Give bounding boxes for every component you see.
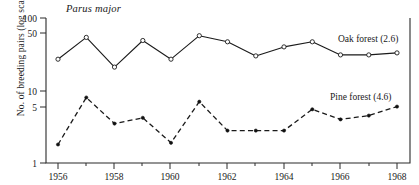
x-tick-1962: 1962 bbox=[218, 172, 237, 182]
chart-canvas: 100 50 10 5 1 1956 1958 1960 1962 1964 bbox=[0, 0, 419, 185]
oak-forest-label: Oak forest (2.6) bbox=[338, 34, 398, 45]
data-point bbox=[395, 51, 399, 55]
data-point bbox=[85, 96, 88, 99]
data-point bbox=[56, 57, 60, 61]
pine-forest-label: Pine forest (4.6) bbox=[330, 92, 391, 103]
series-pine-forest bbox=[56, 96, 398, 146]
x-axis-ticks: 1956 1958 1960 1962 1964 1966 1968 bbox=[49, 163, 407, 182]
data-point bbox=[282, 129, 285, 132]
figure: No. of breeding pairs (log scale) Parus … bbox=[0, 0, 419, 185]
y-axis-ticks: 100 50 10 5 1 bbox=[23, 14, 46, 169]
pine-forest-line bbox=[58, 98, 397, 145]
y-tick-5: 5 bbox=[32, 103, 37, 113]
data-point bbox=[225, 40, 229, 44]
data-point bbox=[113, 122, 116, 125]
y-tick-50: 50 bbox=[28, 29, 38, 39]
data-point bbox=[282, 45, 286, 49]
x-tick-1956: 1956 bbox=[49, 172, 68, 182]
x-tick-1968: 1968 bbox=[388, 172, 407, 182]
x-tick-1958: 1958 bbox=[105, 172, 124, 182]
x-tick-1964: 1964 bbox=[275, 172, 294, 182]
data-point bbox=[367, 114, 370, 117]
data-point bbox=[339, 118, 342, 121]
data-point bbox=[169, 141, 172, 144]
data-point bbox=[311, 108, 314, 111]
data-point bbox=[254, 129, 257, 132]
pine-forest-markers bbox=[56, 96, 398, 146]
data-point bbox=[141, 116, 144, 119]
data-point bbox=[141, 38, 145, 42]
data-point bbox=[198, 100, 201, 103]
data-point bbox=[395, 105, 398, 108]
data-point bbox=[112, 65, 116, 69]
data-point bbox=[338, 53, 342, 57]
data-point bbox=[197, 34, 201, 38]
data-point bbox=[254, 54, 258, 58]
x-tick-1966: 1966 bbox=[331, 172, 350, 182]
data-point bbox=[169, 57, 173, 61]
data-point bbox=[310, 40, 314, 44]
data-point bbox=[367, 53, 371, 57]
data-point bbox=[56, 143, 59, 146]
data-point bbox=[226, 129, 229, 132]
y-tick-1: 1 bbox=[32, 159, 37, 169]
y-tick-10: 10 bbox=[28, 87, 38, 97]
y-tick-100: 100 bbox=[23, 14, 38, 24]
data-point bbox=[84, 35, 88, 39]
x-tick-1960: 1960 bbox=[161, 172, 180, 182]
